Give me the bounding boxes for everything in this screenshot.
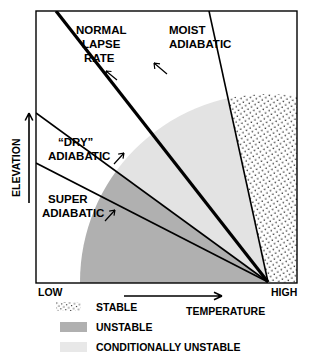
y-axis-label: ELEVATION [10, 138, 22, 197]
legend-swatch-stable [56, 302, 81, 311]
legend-label-stable: STABLE [96, 301, 137, 313]
x-axis-min-label: LOW [38, 286, 63, 298]
label-normal-lapse-rate-line2: LAPSE [82, 38, 121, 50]
legend-item-unstable: UNSTABLE [60, 321, 152, 333]
label-super-adiabatic-line2: ADIABATIC [42, 207, 104, 219]
label-dry-adiabatic-line1: “DRY” [58, 136, 93, 148]
label-super-adiabatic-line1: SUPER [48, 193, 88, 205]
legend-label-conditionally-unstable: CONDITIONALLY UNSTABLE [96, 341, 240, 353]
legend-item-conditionally-unstable: CONDITIONALLY UNSTABLE [60, 341, 240, 353]
elevation-arrow-icon [25, 113, 33, 203]
label-moist-adiabatic-line1: MOIST [169, 24, 205, 36]
label-moist-adiabatic-line2: ADIABATIC [169, 38, 231, 50]
label-normal-lapse-rate-line1: NORMAL [76, 24, 126, 36]
x-axis-label: TEMPERATURE [186, 305, 265, 317]
legend-item-stable: STABLE [56, 301, 137, 313]
label-dry-adiabatic-line2: ADIABATIC [48, 150, 110, 162]
temperature-arrow-icon [124, 292, 222, 300]
diagram-canvas: NORMAL LAPSE RATE MOIST ADIABATIC “DRY” … [0, 0, 312, 363]
legend-label-unstable: UNSTABLE [96, 321, 152, 333]
lapse-rate-diagram: NORMAL LAPSE RATE MOIST ADIABATIC “DRY” … [0, 0, 312, 363]
x-axis-max-label: HIGH [271, 286, 297, 298]
legend-swatch-conditionally-unstable [60, 342, 87, 352]
legend-swatch-unstable [60, 322, 87, 332]
label-normal-lapse-rate-line3: RATE [84, 52, 115, 64]
